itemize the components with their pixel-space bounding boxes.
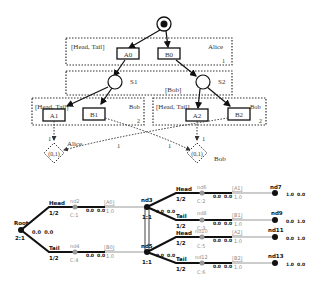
bob-terminal-owner: Bob [214, 155, 226, 163]
nd6-node [200, 191, 205, 196]
sub-branch-4-action: Tail [176, 256, 187, 262]
alice-player-label: Alice [208, 43, 223, 51]
state-s2-node [196, 75, 210, 89]
nd6-move: [A1] [232, 185, 243, 191]
sub-branch-1-action: Head [176, 186, 192, 192]
nd10-count: C:5 [197, 243, 205, 249]
nd3-ratio: 1:1 [142, 214, 152, 220]
sub-branch-1-prob: 1/2 [176, 196, 186, 202]
nd7-label: nd7 [270, 184, 282, 190]
nd10-move: [A2] [232, 229, 243, 235]
nd6-count: C:2 [197, 198, 205, 204]
branch-head-label: Head [49, 200, 65, 206]
nd4-move-value: 1.0 [106, 253, 114, 259]
nd7-node [272, 190, 278, 196]
nd11-node [272, 234, 278, 240]
nd6-label: nd6 [197, 184, 207, 190]
nd12-edge-values: 0.0 0.0 [213, 264, 232, 269]
nd9-payoff: 0.0 1.0 [286, 219, 305, 224]
svg-text:(0,1): (0,1) [48, 151, 60, 158]
alice-terminal-owner: Alice [67, 140, 82, 148]
nd12-node [200, 261, 205, 266]
nd2-move-value: 1.0 [106, 208, 114, 214]
edge-weight-3: 1 [117, 142, 120, 149]
nd8-label: nd8 [197, 210, 207, 216]
nd13-node [272, 260, 278, 266]
svg-text:B1: B1 [90, 111, 99, 119]
nd13-label: nd13 [268, 253, 284, 259]
nd4-move: [B0] [104, 244, 115, 250]
nd3-values: 0.0 0.0 [156, 209, 175, 214]
sub-branch-2-prob: 1/2 [176, 223, 186, 229]
root-label: Root [14, 220, 29, 226]
nd2-edge-values: 0.0 0.0 [86, 208, 105, 213]
nd6-edge-values: 0.0 0.0 [213, 194, 232, 199]
nd2-node [73, 205, 78, 210]
nd12-move-value: 1.0 [234, 264, 242, 270]
nd4-edge-values: 0.0 0.0 [86, 253, 105, 258]
terminal-alice: (0,1) [44, 143, 64, 163]
bob-chance-label: [Bob] [165, 86, 181, 94]
svg-text:A2: A2 [193, 112, 202, 120]
root-node [18, 227, 24, 233]
nd4-count: C:4 [70, 257, 78, 263]
svg-text:A0: A0 [124, 51, 133, 59]
nd5-ratio: 1:1 [142, 259, 152, 265]
nd11-payoff: 0.0 1.0 [286, 236, 305, 241]
nd12-move: [B2] [232, 255, 243, 261]
nd2-label: nd2 [70, 198, 80, 204]
bob-left-player-label: Bob [129, 103, 140, 110]
nd2-count: C:1 [70, 212, 78, 218]
nd8-move: [B1] [232, 212, 243, 218]
nd10-move-value: 1.0 [234, 238, 242, 244]
bob-right-actions-label: [Head, Tail] [156, 103, 190, 111]
action-box-a2: A2 [186, 109, 208, 121]
nd10-node [200, 235, 205, 240]
bob-right-player-label: Bob [250, 103, 261, 110]
branch-tail-prob: 1/2 [49, 255, 59, 261]
nd8-edge-values: 0.0 0.0 [213, 221, 232, 226]
sub-branch-2-action: Tail [176, 213, 187, 219]
nd8-move-value: 1.0 [234, 221, 242, 227]
nd7-payoff: 1.0 0.0 [286, 192, 305, 197]
nd10-edge-values: 0.0 0.0 [213, 238, 232, 243]
edge-weight-4: 1 [168, 142, 171, 149]
bob-left-index-label: 2 [137, 118, 140, 124]
nd5-label: nd5 [141, 243, 153, 249]
nd6-move-value: 1.0 [234, 194, 242, 200]
nd3-label: nd3 [141, 197, 153, 203]
root-ratio: 2:1 [15, 235, 25, 241]
nd3-node [144, 204, 150, 210]
sub-branch-3-action: Head [176, 230, 192, 236]
nd9-label: nd9 [271, 210, 283, 216]
state-s1-label: S1 [130, 78, 138, 86]
nd2-move: [A0] [104, 199, 115, 205]
action-box-a1: A1 [43, 109, 65, 121]
state-s1-node [108, 75, 122, 89]
svg-text:A1: A1 [50, 112, 59, 120]
edge-weight-1: 1 [48, 135, 51, 142]
action-box-b0: B0 [158, 48, 180, 59]
nd5-values: 0.0 0.0 [156, 253, 175, 258]
alice-index-label: 1 [222, 58, 225, 64]
nd12-label: nd12 [195, 254, 208, 260]
action-box-a0: A0 [117, 48, 139, 59]
nd5-node [144, 249, 150, 255]
bob-right-index-label: 2 [259, 118, 262, 124]
sub-branch-4-prob: 1/2 [176, 266, 186, 272]
game-diagram: [Head, Tail] Alice 1 [Bob] [Head, Tail] … [0, 0, 315, 289]
svg-text:(0,1): (0,1) [191, 151, 203, 158]
nd10-label: nd10 [195, 228, 208, 234]
svg-text:B2: B2 [235, 111, 244, 119]
alice-actions-label: [Head, Tail] [71, 43, 105, 51]
root-values: 0.0 0.0 [32, 229, 54, 235]
action-box-b2: B2 [228, 108, 250, 120]
state-s2-label: S2 [218, 78, 226, 86]
sub-branch-3-prob: 1/2 [176, 240, 186, 246]
branch-head-prob: 1/2 [49, 210, 59, 216]
branch-tail-label: Tail [49, 245, 60, 251]
terminal-bob: (0,1) [187, 143, 207, 163]
action-box-b1: B1 [83, 108, 105, 120]
nd9-node [272, 217, 278, 223]
nd12-count: C:6 [197, 269, 205, 275]
